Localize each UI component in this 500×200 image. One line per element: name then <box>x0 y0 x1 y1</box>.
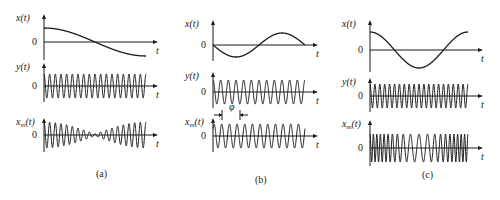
xm-plot: xm(t)0t <box>15 116 159 152</box>
t-axis-arrow-icon <box>313 43 318 47</box>
zero-label: 0 <box>201 39 206 50</box>
t-label: t <box>316 48 319 59</box>
t-label: t <box>481 99 484 110</box>
signal-label: y(t) <box>15 61 31 73</box>
t-label: t <box>156 138 159 149</box>
t-axis-arrow-icon <box>313 90 318 94</box>
signal-label: y(t) <box>341 76 357 88</box>
zero-label: 0 <box>201 86 206 97</box>
y-axis-arrow-icon <box>42 14 46 19</box>
t-axis-arrow-icon <box>478 48 483 52</box>
panel-caption: (c) <box>422 169 433 181</box>
t-axis-arrow-icon <box>313 134 318 138</box>
zero-label: 0 <box>358 90 363 101</box>
y-axis-arrow-icon <box>368 20 372 25</box>
zero-label: 0 <box>358 44 363 55</box>
t-axis-arrow-icon <box>153 84 158 88</box>
x-plot: x(t)0t <box>341 18 484 72</box>
x-plot: x(t)0t <box>15 12 159 60</box>
panel-b-phase-modulation: x(t)0ty(t)0txm(t)0tφ(b) <box>184 18 319 186</box>
panel-c-frequency-modulation: x(t)0ty(t)0txm(t)0t(c) <box>341 18 484 181</box>
t-label: t <box>316 139 319 150</box>
t-axis-arrow-icon <box>478 146 483 150</box>
signal-label: xm(t) <box>15 116 36 129</box>
y-plot: y(t)0t <box>184 70 319 108</box>
t-label: t <box>481 53 484 64</box>
y-axis-arrow-icon <box>368 78 372 83</box>
phase-shift-marker: φ <box>214 101 248 120</box>
signal-label: x(t) <box>184 18 200 30</box>
zero-label: 0 <box>201 130 206 141</box>
zero-label: 0 <box>32 129 37 140</box>
panel-caption: (a) <box>96 168 107 180</box>
t-label: t <box>316 95 319 106</box>
signal-label: x(t) <box>341 18 357 30</box>
panel-a-amplitude-modulation: x(t)0ty(t)0txm(t)0t(a) <box>15 12 159 180</box>
t-label: t <box>156 45 159 56</box>
y-axis-arrow-icon <box>368 120 372 125</box>
signal-label: xm(t) <box>184 116 205 129</box>
y-plot: y(t)0t <box>15 61 159 102</box>
zero-label: 0 <box>358 142 363 153</box>
phase-label: φ <box>229 101 235 112</box>
signal-label: y(t) <box>184 70 200 82</box>
y-axis-arrow-icon <box>211 118 215 123</box>
y-plot: y(t)0t <box>341 76 484 112</box>
modulation-figure: x(t)0ty(t)0txm(t)0t(a) x(t)0ty(t)0txm(t)… <box>0 0 500 200</box>
xm-plot: xm(t)0t <box>184 116 319 152</box>
zero-label: 0 <box>32 36 37 47</box>
y-axis-arrow-icon <box>42 63 46 68</box>
t-label: t <box>481 151 484 162</box>
signal-label: xm(t) <box>341 118 362 131</box>
panel-caption: (b) <box>255 174 267 186</box>
y-axis-arrow-icon <box>211 72 215 77</box>
t-axis-arrow-icon <box>153 40 158 44</box>
xm-plot: xm(t)0t <box>341 118 484 166</box>
x-plot: x(t)0t <box>184 18 319 61</box>
signal-label: x(t) <box>15 12 31 24</box>
t-label: t <box>156 89 159 100</box>
t-axis-arrow-icon <box>478 94 483 98</box>
y-axis-arrow-icon <box>211 20 215 25</box>
t-axis-arrow-icon <box>153 133 158 137</box>
zero-label: 0 <box>32 80 37 91</box>
